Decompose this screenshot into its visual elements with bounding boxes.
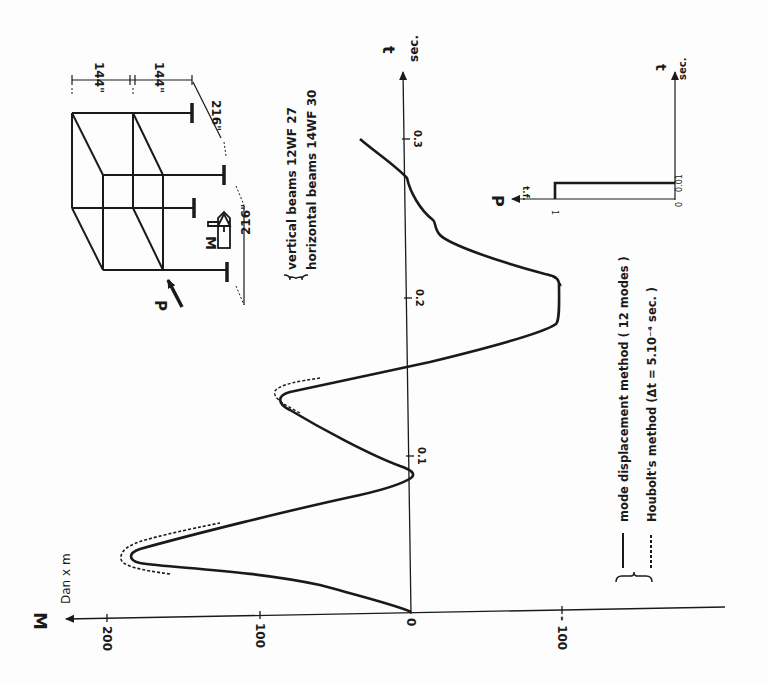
tick-label-t-0-3: 0.3 <box>412 130 423 148</box>
legend-solid-label: mode displacement method ( 12 modes ) <box>617 256 631 522</box>
chart-figure: 200 100 0 - 100 0.1 0.2 0.3 M Dan x m t … <box>0 0 767 686</box>
m-axis-title: M <box>30 612 51 630</box>
tick-label-0: 0 <box>404 618 418 626</box>
inset-pulse <box>555 183 675 199</box>
legend: mode displacement method ( 12 modes ) Ho… <box>616 256 659 582</box>
m-axis <box>66 606 725 622</box>
m-axis-unit: Dan x m <box>59 553 73 604</box>
inset-t-label: t <box>653 64 669 71</box>
beam-vertical-label: vertical beams 12WF 27 <box>285 107 299 270</box>
inset-t-unit: sec. <box>677 58 688 80</box>
chart-canvas: 200 100 0 - 100 0.1 0.2 0.3 M Dan x m t … <box>0 0 767 686</box>
dim-216-width: 216" <box>239 204 253 235</box>
beam-brace <box>284 275 308 280</box>
t-axis-unit: sec. <box>407 35 421 62</box>
legend-brace <box>616 572 652 582</box>
tick-label-100: 100 <box>253 623 267 648</box>
dim-144-lower: 144" <box>152 62 166 93</box>
inset-p-label: P <box>488 195 507 207</box>
dim-144-upper: 144" <box>92 62 106 93</box>
dim-216-depth: 216" <box>209 100 223 131</box>
t-axis-title: t <box>379 46 398 54</box>
beam-horizontal-label: horizontal beams 14WF 30 <box>305 90 319 270</box>
legend-dashed-label: Houbolt's method (Δt = 5.10⁻⁴ sec. ) <box>645 287 659 522</box>
load-p-label: P <box>151 300 169 311</box>
inset-tick-001: 0.01 <box>675 174 684 192</box>
tick-label-200: 200 <box>100 626 114 651</box>
tick-label-t-0-2: 0.2 <box>414 289 425 307</box>
tick-label-minus-100: - 100 <box>555 616 569 650</box>
inset-tick-zero: 0 <box>675 202 684 207</box>
tick-label-t-0-1: 0.1 <box>416 447 427 465</box>
inset-p-unit: t.f. <box>521 186 531 201</box>
load-history-inset <box>512 72 675 200</box>
moment-m-label: M <box>203 236 219 250</box>
t-axis <box>402 72 414 614</box>
inset-tick-one: 1 <box>550 210 559 215</box>
